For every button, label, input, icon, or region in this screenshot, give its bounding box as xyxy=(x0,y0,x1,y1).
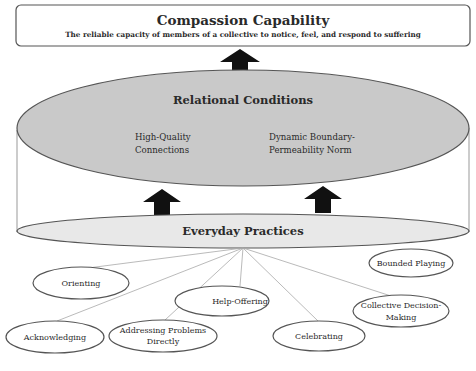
practice-collective-decision-making: Collective Decision- Making xyxy=(353,295,449,327)
practice-acknowledging: Acknowledging xyxy=(6,321,104,353)
compassion-capability-title: Compassion Capability xyxy=(157,12,331,28)
arrow-up-left-icon xyxy=(143,189,181,215)
practice-bounded-playing: Bounded Playing xyxy=(369,249,453,277)
relational-conditions-ellipse: Relational Conditions High-Quality Conne… xyxy=(17,70,469,186)
svg-text:Addressing Problems: Addressing Problems xyxy=(119,326,206,335)
svg-text:Orienting: Orienting xyxy=(62,279,101,288)
svg-text:Acknowledging: Acknowledging xyxy=(23,333,86,342)
arrow-up-right-icon xyxy=(304,186,342,213)
svg-text:Making: Making xyxy=(386,313,417,322)
practice-celebrating: Celebrating xyxy=(273,321,365,351)
practice-help-offering: Help-Offering xyxy=(175,286,269,316)
svg-text:Help-Offering: Help-Offering xyxy=(212,297,268,306)
everyday-practices-title: Everyday Practices xyxy=(182,224,303,238)
everyday-practices-ellipse: Everyday Practices xyxy=(17,214,469,248)
dynamic-boundary-line2: Permeability Norm xyxy=(269,145,352,155)
high-quality-connections-line1: High-Quality xyxy=(135,132,191,142)
svg-text:Collective Decision-: Collective Decision- xyxy=(361,301,442,310)
compassion-capability-box: Compassion Capability The reliable capac… xyxy=(16,5,470,46)
svg-text:Directly: Directly xyxy=(147,337,180,346)
practice-orienting: Orienting xyxy=(33,267,129,299)
svg-text:Celebrating: Celebrating xyxy=(295,332,343,341)
compassion-capability-definition: The reliable capacity of members of a co… xyxy=(65,30,420,39)
dynamic-boundary-line1: Dynamic Boundary- xyxy=(269,132,355,142)
svg-text:Bounded Playing: Bounded Playing xyxy=(377,259,446,268)
relational-conditions-title: Relational Conditions xyxy=(173,93,313,107)
practice-addressing-problems-directly: Addressing Problems Directly xyxy=(109,320,217,352)
compassion-capability-diagram: Compassion Capability The reliable capac… xyxy=(0,0,476,371)
high-quality-connections-line2: Connections xyxy=(135,145,189,155)
